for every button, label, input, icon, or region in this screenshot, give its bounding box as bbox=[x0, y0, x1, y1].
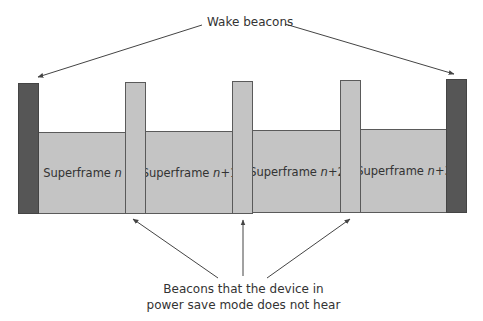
arrow-to-beacon-1 bbox=[133, 219, 218, 278]
unheard-beacons-label-line2: power save mode does not hear bbox=[0, 298, 483, 312]
unheard-beacons-label-line1: Beacons that the device in bbox=[0, 282, 483, 296]
arrow-to-beacon-3 bbox=[267, 219, 350, 278]
arrow-to-wake-right bbox=[285, 24, 454, 74]
arrow-to-wake-left bbox=[38, 25, 202, 77]
arrows bbox=[0, 0, 483, 321]
wake-beacons-label: Wake beacons bbox=[207, 15, 293, 29]
